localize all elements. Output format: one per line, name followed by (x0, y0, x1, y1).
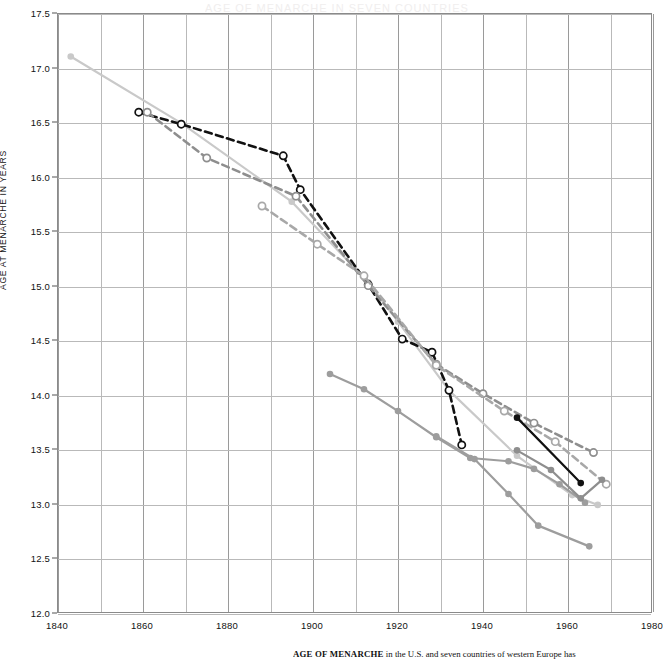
series-e-gray-solid-mid-point-2 (395, 408, 402, 415)
series-b-black-dashed-line (139, 112, 462, 445)
series-h-black-solid-line (517, 418, 581, 483)
series-c-gray-dashed-upper-point-7 (590, 449, 597, 456)
y-tick-label-15.5: 15.5 (31, 226, 50, 237)
series-a-light-solid-line (71, 57, 598, 505)
series-e-gray-solid-mid-line (330, 374, 585, 503)
data-series-layer (58, 14, 653, 614)
series-f-gray-solid-lower-point-2 (505, 491, 512, 498)
y-tick-label-14.0: 14.0 (31, 389, 50, 400)
series-b-black-dashed-point-0 (135, 109, 142, 116)
series-b-black-dashed-point-5 (399, 335, 406, 342)
series-c-gray-dashed-upper-point-1 (203, 154, 210, 161)
series-b-black-dashed (135, 109, 465, 449)
x-tick-label-1920: 1920 (386, 620, 408, 631)
series-d-gray-dashed-lower-point-1 (314, 241, 321, 248)
x-tick-label-1840: 1840 (46, 620, 68, 631)
series-d-gray-dashed-lower-point-5 (552, 438, 559, 445)
y-tick-label-13.0: 13.0 (31, 498, 50, 509)
series-g-gray-solid-short-point-2 (577, 495, 584, 502)
series-f-gray-solid-lower-point-1 (471, 456, 478, 463)
x-tick-label-1860: 1860 (131, 620, 153, 631)
series-g-gray-solid-short-point-3 (599, 477, 606, 484)
series-c-gray-dashed-upper-point-2 (292, 193, 299, 200)
series-f-gray-solid-lower-point-3 (535, 522, 542, 529)
series-a-light-solid (67, 53, 601, 508)
series-h-black-solid (514, 414, 584, 486)
series-e-gray-solid-mid-point-6 (531, 466, 538, 473)
series-e-gray-solid-mid-point-5 (505, 458, 512, 465)
x-tick-label-1960: 1960 (556, 620, 578, 631)
plot-area (57, 13, 652, 613)
y-axis-title: AGE AT MENARCHE IN YEARS (0, 90, 8, 290)
series-a-light-solid-point-0 (67, 53, 74, 60)
series-c-gray-dashed-upper-point-0 (144, 109, 151, 116)
series-d-gray-dashed-lower-point-0 (258, 202, 265, 209)
caption-lead: AGE OF MENARCHE (293, 649, 384, 659)
y-tick-label-16.0: 16.0 (31, 171, 50, 182)
y-tick-label-17.5: 17.5 (31, 8, 50, 19)
y-tick-label-15.0: 15.0 (31, 280, 50, 291)
series-c-gray-dashed-upper-point-6 (530, 419, 537, 426)
series-d-gray-dashed-lower-point-4 (501, 407, 508, 414)
series-d-gray-dashed-lower-point-3 (433, 362, 440, 369)
gridline-vertical-1980 (653, 14, 654, 612)
series-g-gray-solid-short-line (517, 450, 602, 498)
y-tick-label-17.0: 17.0 (31, 62, 50, 73)
y-tick-label-13.5: 13.5 (31, 444, 50, 455)
series-b-black-dashed-point-8 (458, 441, 465, 448)
series-e-gray-solid-mid-point-1 (361, 386, 368, 393)
series-a-light-solid-point-8 (594, 502, 601, 509)
series-d-gray-dashed-lower-point-2 (360, 272, 367, 279)
series-e-gray-solid-mid-point-0 (327, 371, 334, 378)
series-g-gray-solid-short-point-1 (548, 467, 555, 474)
y-tick-label-12.0: 12.0 (31, 608, 50, 619)
series-h-black-solid-point-1 (577, 480, 584, 487)
series-b-black-dashed-point-1 (178, 121, 185, 128)
y-tick-label-16.5: 16.5 (31, 117, 50, 128)
series-h-black-solid-point-0 (514, 414, 521, 421)
series-g-gray-solid-short-point-0 (514, 447, 521, 454)
series-e-gray-solid-mid-point-7 (556, 481, 563, 488)
x-tick-label-1940: 1940 (471, 620, 493, 631)
x-tick-label-1880: 1880 (216, 620, 238, 631)
series-b-black-dashed-point-7 (445, 387, 452, 394)
y-tick-label-12.5: 12.5 (31, 553, 50, 564)
caption-rest: in the U.S. and seven countries of weste… (384, 649, 576, 659)
series-f-gray-solid-lower-point-4 (586, 543, 593, 550)
y-tick-label-14.5: 14.5 (31, 335, 50, 346)
series-f-gray-solid-lower-point-0 (433, 433, 440, 440)
series-d-gray-dashed-lower (258, 202, 609, 487)
figure-caption: AGE OF MENARCHE in the U.S. and seven co… (293, 649, 668, 663)
x-tick-label-1980: 1980 (641, 620, 663, 631)
menarche-age-chart: AGE OF MENARCHE IN SEVEN COUNTRIES AGE A… (0, 0, 668, 663)
series-b-black-dashed-point-2 (280, 152, 287, 159)
gridline-horizontal-12.0 (58, 614, 651, 615)
x-tick-label-1900: 1900 (301, 620, 323, 631)
